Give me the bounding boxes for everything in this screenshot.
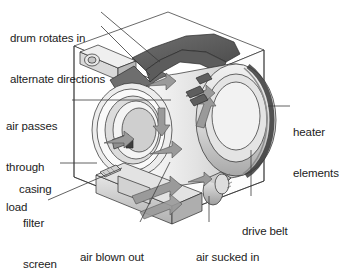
- leader-air-blown-out: [140, 162, 170, 222]
- label-air-blown-out-line1: air blown out: [80, 251, 144, 265]
- label-air-passes-line1: air passes: [6, 120, 57, 134]
- label-heater-elements-line2: elements: [293, 167, 339, 181]
- label-heater-elements-line1: heater: [293, 126, 339, 140]
- label-filter-screen-line2: screen: [23, 258, 57, 272]
- leader-drum-rotates-b: [101, 26, 150, 75]
- label-air-sucked-in: air sucked in: [196, 224, 259, 272]
- label-filter-screen-line1: filter: [23, 217, 57, 231]
- label-drum-rotates-line2: alternate directions: [10, 73, 105, 87]
- label-air-blown-out: air blown out: [80, 224, 144, 272]
- label-air-sucked-in-line1: air sucked in: [196, 251, 259, 265]
- label-drum-rotates-line1: drum rotates in: [10, 32, 105, 46]
- label-filter-screen: filter screen: [23, 190, 57, 272]
- leader-filter-screen: [48, 168, 122, 200]
- leader-drum-rotates-a: [101, 12, 160, 62]
- label-heater-elements: heater elements: [293, 99, 339, 207]
